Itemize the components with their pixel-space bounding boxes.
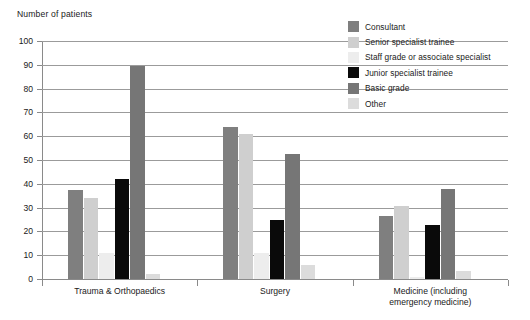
legend-item-label: Junior specialist trainee bbox=[365, 68, 453, 78]
legend-item: Basic grade bbox=[348, 81, 530, 96]
y-axis-tick-label: 90 bbox=[1, 60, 33, 70]
x-axis-category-label: Surgery bbox=[197, 286, 352, 297]
legend-swatch-icon bbox=[348, 98, 359, 109]
y-axis-tick-mark bbox=[37, 160, 42, 161]
y-axis-tick-label: 80 bbox=[1, 84, 33, 94]
gridline bbox=[42, 112, 508, 113]
bar bbox=[270, 220, 285, 280]
y-axis-tick-mark bbox=[37, 255, 42, 256]
legend-swatch-icon bbox=[348, 67, 359, 78]
gridline bbox=[42, 208, 508, 209]
y-axis-title: Number of patients bbox=[17, 9, 92, 19]
y-axis-tick-label: 100 bbox=[1, 36, 33, 46]
bar bbox=[379, 216, 394, 279]
bar bbox=[410, 277, 425, 279]
legend-item-label: Consultant bbox=[365, 22, 405, 32]
y-axis-tick-mark bbox=[37, 112, 42, 113]
bar bbox=[68, 190, 83, 279]
legend-item-label: Senior specialist trainee bbox=[365, 37, 454, 47]
bar bbox=[285, 154, 300, 279]
y-axis-tick-mark bbox=[37, 89, 42, 90]
legend-item-label: Other bbox=[365, 99, 386, 109]
bar bbox=[456, 271, 471, 279]
bar bbox=[115, 179, 130, 279]
y-axis-tick-label: 70 bbox=[1, 107, 33, 117]
y-axis-tick-label: 50 bbox=[1, 155, 33, 165]
bar bbox=[425, 225, 440, 279]
y-axis-tick-label: 0 bbox=[1, 274, 33, 284]
gridline bbox=[42, 279, 508, 280]
y-axis-tick-mark bbox=[37, 231, 42, 232]
bar bbox=[84, 198, 99, 279]
bar bbox=[441, 189, 456, 279]
legend-item-label: Basic grade bbox=[365, 83, 409, 93]
legend-item-label: Staff grade or associate specialist bbox=[365, 52, 491, 62]
x-axis-category-label: Medicine (including emergency medicine) bbox=[353, 286, 508, 307]
legend-item: Other bbox=[348, 96, 530, 111]
category-tick-mark bbox=[508, 280, 509, 286]
bar bbox=[394, 206, 409, 279]
legend-item: Consultant bbox=[348, 19, 530, 34]
legend-item: Senior specialist trainee bbox=[348, 34, 530, 49]
y-axis-tick-label: 60 bbox=[1, 131, 33, 141]
bar bbox=[239, 134, 254, 279]
legend-swatch-icon bbox=[348, 83, 359, 94]
y-axis-tick-mark bbox=[37, 65, 42, 66]
y-axis-tick-label: 30 bbox=[1, 203, 33, 213]
y-axis-tick-labels: 1009080706050403020100 bbox=[0, 41, 33, 280]
legend-swatch-icon bbox=[348, 21, 359, 32]
bar bbox=[146, 274, 161, 279]
y-axis-tick-mark bbox=[37, 41, 42, 42]
gridline bbox=[42, 184, 508, 185]
legend-item: Staff grade or associate specialist bbox=[348, 50, 530, 65]
x-axis-category-label: Trauma & Orthopaedics bbox=[42, 286, 197, 297]
y-axis-tick-label: 40 bbox=[1, 179, 33, 189]
bar bbox=[130, 66, 145, 279]
gridline bbox=[42, 160, 508, 161]
y-axis-tick-label: 10 bbox=[1, 250, 33, 260]
bar bbox=[254, 253, 269, 279]
y-axis-tick-mark bbox=[37, 136, 42, 137]
legend-item: Junior specialist trainee bbox=[348, 65, 530, 80]
legend-swatch-icon bbox=[348, 52, 359, 63]
bar bbox=[99, 253, 114, 279]
bar bbox=[223, 127, 238, 279]
y-axis-tick-label: 20 bbox=[1, 226, 33, 236]
y-axis-tick-mark bbox=[37, 184, 42, 185]
gridline bbox=[42, 136, 508, 137]
y-axis-tick-mark bbox=[37, 208, 42, 209]
bar bbox=[301, 265, 316, 279]
legend: ConsultantSenior specialist traineeStaff… bbox=[348, 19, 530, 111]
legend-swatch-icon bbox=[348, 37, 359, 48]
